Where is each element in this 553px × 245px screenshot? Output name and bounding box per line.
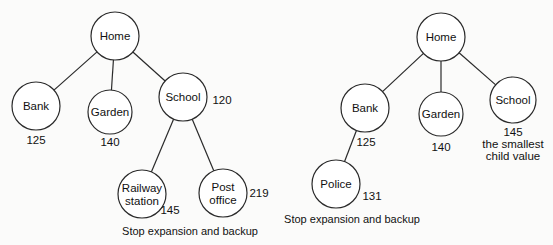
node-label: Home xyxy=(100,30,131,42)
search-tree-diagram: HomeBankGardenSchoolRailwaystationPostof… xyxy=(0,0,553,245)
edge-left-school-railway xyxy=(151,119,173,172)
node-label: Post xyxy=(211,181,235,193)
edge-left-school-postoffice xyxy=(192,119,214,171)
node-right-police: Police xyxy=(312,160,360,208)
node-left-garden: Garden xyxy=(88,90,132,134)
annotation-right: child value xyxy=(486,150,540,162)
node-label: Bank xyxy=(23,100,49,112)
nodes-layer: HomeBankGardenSchoolRailwaystationPostof… xyxy=(12,12,536,218)
node-label: School xyxy=(165,91,200,103)
node-label: Garden xyxy=(91,106,129,118)
edge-left-home-garden xyxy=(111,60,113,90)
value-label-right-police: 131 xyxy=(362,190,381,202)
node-left-school: School xyxy=(159,73,207,121)
node-label: station xyxy=(125,195,159,207)
caption-left: Stop expansion and backup xyxy=(122,225,258,237)
edge-left-home-bank xyxy=(54,52,97,90)
node-left-railway: Railwaystation xyxy=(118,170,166,218)
annotation-right: the smallest xyxy=(482,138,544,150)
node-label: office xyxy=(209,194,236,206)
value-label-right-garden: 140 xyxy=(431,141,450,153)
node-right-school: School xyxy=(490,77,536,123)
node-label: Police xyxy=(320,178,351,190)
value-label-left-bank: 125 xyxy=(26,134,45,146)
node-label: Home xyxy=(426,31,457,43)
caption-right: Stop expansion and backup xyxy=(284,213,420,225)
value-label-left-railway: 145 xyxy=(160,204,179,216)
node-left-postoffice: Postoffice xyxy=(199,169,247,217)
edge-right-home-bank xyxy=(383,53,424,91)
node-left-bank: Bank xyxy=(12,82,60,130)
value-label-left-garden: 140 xyxy=(100,136,119,148)
node-label: Railway xyxy=(122,182,163,194)
value-label-left-postoffice: 219 xyxy=(249,187,268,199)
edge-right-home-school xyxy=(459,53,496,85)
node-right-garden: Garden xyxy=(419,92,463,136)
edge-right-bank-police xyxy=(345,130,357,161)
node-label: School xyxy=(495,94,530,106)
node-left-home: Home xyxy=(91,12,139,60)
value-label-right-school: 145 xyxy=(503,126,522,138)
node-label: Garden xyxy=(422,108,460,120)
node-right-home: Home xyxy=(417,13,465,61)
node-label: Bank xyxy=(352,102,378,114)
edge-left-home-school xyxy=(133,52,165,81)
value-label-right-bank: 125 xyxy=(356,136,375,148)
node-right-bank: Bank xyxy=(341,84,389,132)
value-label-left-school: 120 xyxy=(212,94,231,106)
